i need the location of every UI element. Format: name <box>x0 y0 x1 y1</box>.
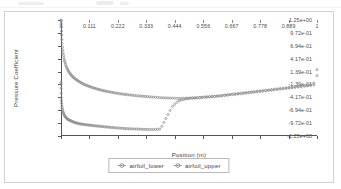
data-point <box>279 87 281 89</box>
data-point <box>250 91 252 93</box>
data-point <box>178 100 180 102</box>
x-tick <box>317 136 318 139</box>
data-point <box>224 94 226 96</box>
data-point <box>259 90 261 92</box>
data-point <box>196 97 198 99</box>
scan-smudge <box>96 1 114 5</box>
data-point <box>61 42 63 44</box>
data-point <box>218 95 220 97</box>
data-point <box>201 96 203 98</box>
data-point <box>204 96 206 98</box>
data-point <box>169 109 171 111</box>
data-point <box>237 92 239 94</box>
y-tick <box>58 136 61 137</box>
data-point <box>159 128 161 130</box>
data-point <box>213 95 215 97</box>
data-point <box>285 87 287 89</box>
data-point <box>242 92 244 94</box>
data-point <box>265 89 267 91</box>
x-tick <box>118 136 119 139</box>
data-point <box>60 30 62 32</box>
data-point <box>60 26 62 28</box>
data-point <box>234 93 236 95</box>
legend-marker-icon <box>173 162 182 169</box>
data-point <box>61 34 63 36</box>
series-airfoil-upper <box>60 19 318 100</box>
data-point <box>61 38 63 40</box>
data-point <box>262 90 264 92</box>
plot-area: 00.1110.2220.3330.4440.5560.6670.7780.88… <box>61 20 317 136</box>
data-point <box>171 97 173 99</box>
data-point <box>173 97 175 99</box>
legend-label: airfoil_lower <box>129 163 164 169</box>
y-axis-title: Pressure Coefficient <box>11 20 21 136</box>
x-tick <box>89 136 90 139</box>
x-tick <box>203 136 204 139</box>
plot-frame: 00.1110.2220.3330.4440.5560.6670.7780.88… <box>61 20 317 136</box>
data-point <box>61 102 63 104</box>
x-tick <box>175 136 176 139</box>
legend-marker-icon <box>117 162 126 169</box>
data-point <box>192 97 194 99</box>
data-point <box>61 46 63 48</box>
data-point <box>316 75 318 77</box>
data-point <box>180 97 182 99</box>
data-point <box>300 85 302 87</box>
data-point <box>60 92 62 94</box>
scan-rule-line <box>0 7 341 8</box>
data-point <box>291 86 293 88</box>
data-point <box>60 23 62 25</box>
data-point <box>60 100 62 102</box>
data-point <box>194 97 196 99</box>
data-point <box>256 90 258 92</box>
data-point <box>267 89 269 91</box>
data-point <box>276 88 278 90</box>
data-point <box>216 95 218 97</box>
data-point <box>178 97 180 99</box>
x-tick <box>61 136 62 139</box>
chart-figure: Pressure Coefficient 00.1110.2220.3330.4… <box>4 11 334 183</box>
data-point <box>282 87 284 89</box>
data-point <box>173 103 175 105</box>
data-point <box>169 97 171 99</box>
chart-legend: airfoil_lower airfoil_upper <box>108 158 229 173</box>
data-point <box>167 113 169 115</box>
data-point <box>253 91 255 93</box>
legend-entry-airfoil-lower[interactable]: airfoil_lower <box>117 162 164 169</box>
x-tick <box>146 136 147 139</box>
data-point <box>307 84 309 86</box>
data-point <box>165 117 167 119</box>
data-point <box>62 54 64 56</box>
data-point <box>288 86 290 88</box>
scan-artifact-band <box>0 0 341 11</box>
data-series-layer <box>61 20 317 136</box>
data-point <box>199 96 201 98</box>
data-point <box>239 92 241 94</box>
data-point <box>60 83 62 85</box>
data-point <box>187 97 189 99</box>
data-point <box>273 88 275 90</box>
legend-entry-airfoil-upper[interactable]: airfoil_upper <box>173 162 221 169</box>
data-point <box>161 125 163 127</box>
legend-label: airfoil_upper <box>185 163 221 169</box>
data-point <box>211 95 213 97</box>
scan-smudge <box>120 2 129 5</box>
data-point <box>208 96 210 98</box>
data-point <box>313 82 315 84</box>
x-tick <box>232 136 233 139</box>
series-airfoil-lower <box>60 75 318 131</box>
data-point <box>248 91 250 93</box>
data-point <box>62 52 64 54</box>
data-point <box>294 86 296 88</box>
y-axis-title-text: Pressure Coefficient <box>13 49 19 107</box>
data-point <box>60 87 62 89</box>
data-point <box>176 101 178 103</box>
data-point <box>231 93 233 95</box>
data-point <box>270 89 272 91</box>
data-point <box>303 85 305 87</box>
scan-smudge <box>18 2 44 5</box>
data-point <box>245 92 247 94</box>
data-point <box>226 94 228 96</box>
data-point <box>62 49 64 51</box>
data-point <box>189 97 191 99</box>
